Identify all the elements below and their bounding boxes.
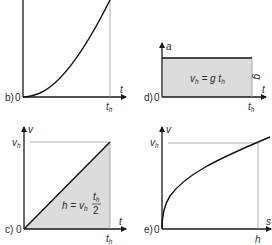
x-tick-th: th (248, 101, 255, 113)
x-axis-label: t (119, 216, 123, 227)
x-tick-th: th (106, 101, 113, 113)
x-tick-h: h (255, 234, 261, 245)
panel-tag: d) (144, 92, 153, 103)
panel-c-velocity-vs-time: c) 0 v vh t th h = vh th 2 (5, 124, 126, 245)
panel-tag: c) (5, 224, 13, 235)
svg-text:2: 2 (93, 205, 99, 216)
sqrt-curve (162, 137, 270, 229)
y-axis-label: v (166, 124, 172, 135)
g-level-label: g (252, 74, 263, 80)
y-tick-vh: vh (12, 137, 21, 149)
x-axis-label: t (120, 84, 124, 95)
x-axis-label: t (262, 84, 266, 95)
x-axis-label: s (266, 216, 271, 227)
y-tick-vh: vh (150, 137, 159, 149)
origin-label: 0 (154, 92, 160, 103)
panel-d-acceleration-vs-time: d) 0 a t th g vh = g th (144, 41, 266, 113)
panel-e-velocity-vs-distance: e) 0 v vh s h (144, 124, 271, 245)
parabola-curve (23, 0, 110, 97)
panel-tag: e) (144, 224, 153, 235)
y-axis-label: v (28, 124, 34, 135)
origin-label: 0 (154, 224, 160, 235)
kinematics-diagrams: b) 0 t th d) 0 a t th g vh = g th c) 0 v… (0, 0, 272, 245)
y-axis-label: a (166, 41, 172, 52)
panel-tag: b) (5, 92, 14, 103)
origin-label: 0 (16, 224, 22, 235)
panel-b-height-vs-time: b) 0 t th (5, 0, 126, 113)
x-tick-th: th (106, 233, 113, 245)
origin-label: 0 (15, 92, 21, 103)
